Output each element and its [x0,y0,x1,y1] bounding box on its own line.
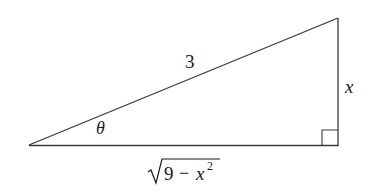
adjacent-label: 9 − x 2 [148,159,220,184]
hypotenuse-label: 3 [185,51,195,72]
triangle-diagram: 3 θ x 9 − x 2 [0,0,383,193]
hypotenuse-side [29,18,338,145]
opposite-label: x [344,76,354,97]
radicand-x: x [195,163,205,184]
right-angle-marker [322,130,338,146]
radicand-minus: − [179,163,189,183]
radicand-exponent: 2 [207,159,213,173]
angle-theta-label: θ [96,118,105,138]
radicand-nine: 9 [164,163,174,184]
